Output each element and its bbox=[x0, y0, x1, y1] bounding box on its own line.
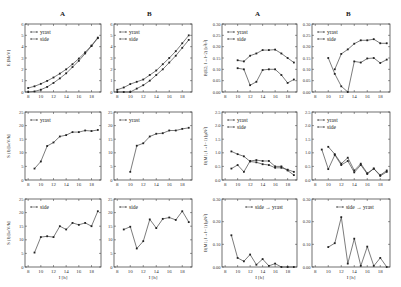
svg-text:4: 4 bbox=[110, 44, 113, 49]
svg-text:5: 5 bbox=[110, 164, 113, 169]
y-axis-label: S (I) [keV/ħ] bbox=[6, 134, 11, 158]
chart-panel-s-side-b: 810121416180510152025I [ħ]side bbox=[92, 197, 196, 287]
svg-text:14: 14 bbox=[154, 182, 160, 187]
svg-text:18: 18 bbox=[378, 269, 384, 274]
svg-text:10: 10 bbox=[326, 182, 332, 187]
chart-panel-bm1-b: 810121416180.00.51.01.52.02.5yrastside bbox=[290, 110, 394, 200]
svg-text:0.0: 0.0 bbox=[305, 178, 311, 183]
svg-text:25: 25 bbox=[19, 110, 24, 115]
svg-text:12: 12 bbox=[51, 269, 57, 274]
legend-entry: yrast bbox=[40, 117, 51, 123]
svg-text:15: 15 bbox=[108, 224, 113, 229]
x-axis-label: I [ħ] bbox=[149, 275, 158, 280]
svg-text:14: 14 bbox=[260, 94, 266, 99]
svg-text:0: 0 bbox=[21, 90, 24, 95]
svg-text:14: 14 bbox=[352, 269, 358, 274]
svg-text:8: 8 bbox=[116, 269, 119, 274]
svg-text:8: 8 bbox=[27, 94, 30, 99]
legend-entry: side bbox=[327, 36, 336, 42]
svg-text:12: 12 bbox=[248, 94, 254, 99]
svg-text:10: 10 bbox=[235, 94, 241, 99]
svg-text:2.0: 2.0 bbox=[305, 123, 311, 128]
y-axis-label: E [MeV] bbox=[6, 49, 11, 66]
svg-text:10: 10 bbox=[38, 94, 44, 99]
column-header-a2: A bbox=[255, 10, 260, 18]
svg-text:0: 0 bbox=[21, 265, 24, 270]
svg-text:0.00: 0.00 bbox=[213, 90, 222, 95]
svg-text:0.10: 0.10 bbox=[303, 242, 312, 247]
svg-text:16: 16 bbox=[273, 94, 279, 99]
svg-text:0: 0 bbox=[110, 90, 113, 95]
svg-text:20: 20 bbox=[19, 210, 24, 215]
svg-text:8: 8 bbox=[116, 182, 119, 187]
svg-text:20: 20 bbox=[108, 123, 113, 128]
svg-text:16: 16 bbox=[167, 182, 173, 187]
svg-text:6: 6 bbox=[21, 22, 24, 27]
chart-panel-be2-a: 810121416180.000.050.100.150.200.250.30B… bbox=[200, 22, 301, 112]
svg-text:0.05: 0.05 bbox=[303, 78, 312, 83]
svg-text:0.30: 0.30 bbox=[213, 22, 222, 27]
legend-entry: yrast bbox=[237, 117, 248, 123]
svg-text:18: 18 bbox=[180, 182, 186, 187]
svg-text:2: 2 bbox=[21, 67, 23, 72]
svg-text:0.20: 0.20 bbox=[303, 44, 312, 49]
svg-text:2.5: 2.5 bbox=[305, 110, 311, 115]
svg-text:5: 5 bbox=[21, 33, 24, 38]
legend-entry: side bbox=[237, 36, 246, 42]
svg-text:1.5: 1.5 bbox=[215, 137, 221, 142]
svg-text:15: 15 bbox=[19, 137, 24, 142]
chart-panel-bm1-link-a: 810121416180.000.100.200.30B(M1; I→I−1) … bbox=[200, 197, 301, 287]
svg-text:0.00: 0.00 bbox=[303, 265, 312, 270]
svg-text:16: 16 bbox=[76, 94, 82, 99]
svg-text:14: 14 bbox=[64, 182, 70, 187]
svg-text:8: 8 bbox=[27, 182, 30, 187]
svg-text:20: 20 bbox=[108, 210, 113, 215]
svg-text:10: 10 bbox=[108, 150, 113, 155]
svg-text:10: 10 bbox=[128, 182, 134, 187]
y-axis-label: B(E2; I→I−2) [e²b²] bbox=[203, 39, 208, 76]
svg-text:1: 1 bbox=[21, 78, 23, 83]
svg-text:0.10: 0.10 bbox=[303, 67, 312, 72]
chart-panel-be2-b: 810121416180.000.050.100.150.200.250.30y… bbox=[290, 22, 394, 112]
svg-text:5: 5 bbox=[110, 33, 113, 38]
svg-text:10: 10 bbox=[128, 94, 134, 99]
svg-text:5: 5 bbox=[110, 251, 113, 256]
svg-text:12: 12 bbox=[339, 94, 345, 99]
svg-text:1: 1 bbox=[110, 78, 112, 83]
svg-text:16: 16 bbox=[76, 182, 82, 187]
svg-text:4: 4 bbox=[21, 44, 24, 49]
svg-text:0: 0 bbox=[110, 178, 113, 183]
svg-text:0.15: 0.15 bbox=[213, 56, 222, 61]
chart-panel-s-yrast-b: 810121416180510152025yrast bbox=[92, 110, 196, 200]
svg-text:16: 16 bbox=[365, 269, 371, 274]
legend-entry: side bbox=[40, 36, 49, 42]
svg-text:8: 8 bbox=[314, 94, 317, 99]
legend-entry: yrast bbox=[129, 117, 140, 123]
legend-entry: yrast bbox=[327, 29, 338, 35]
svg-text:16: 16 bbox=[76, 269, 82, 274]
chart-panel-s-yrast-a: 810121416180510152025S (I) [keV/ħ]yrast bbox=[3, 110, 105, 200]
svg-text:8: 8 bbox=[224, 94, 227, 99]
legend-entry: yrast bbox=[129, 29, 140, 35]
svg-text:3: 3 bbox=[110, 56, 113, 61]
svg-text:18: 18 bbox=[180, 269, 186, 274]
svg-text:10: 10 bbox=[19, 150, 24, 155]
svg-text:16: 16 bbox=[273, 269, 279, 274]
legend-entry: yrast bbox=[327, 117, 338, 123]
svg-text:14: 14 bbox=[154, 269, 160, 274]
svg-text:12: 12 bbox=[141, 269, 147, 274]
svg-text:16: 16 bbox=[167, 269, 173, 274]
svg-text:8: 8 bbox=[314, 182, 317, 187]
svg-text:8: 8 bbox=[224, 269, 227, 274]
svg-text:3: 3 bbox=[21, 56, 24, 61]
svg-text:5: 5 bbox=[21, 164, 24, 169]
svg-text:14: 14 bbox=[64, 269, 70, 274]
svg-text:2.0: 2.0 bbox=[215, 123, 221, 128]
column-header-a1: A bbox=[60, 10, 65, 18]
svg-text:14: 14 bbox=[352, 94, 358, 99]
svg-text:0.20: 0.20 bbox=[213, 219, 222, 224]
svg-text:0.15: 0.15 bbox=[303, 56, 312, 61]
svg-text:10: 10 bbox=[38, 182, 44, 187]
svg-text:18: 18 bbox=[378, 94, 384, 99]
svg-text:0.5: 0.5 bbox=[215, 164, 221, 169]
